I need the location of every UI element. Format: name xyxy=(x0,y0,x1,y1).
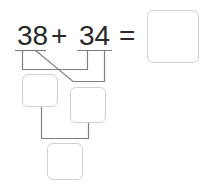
addition-decomposition-diagram: 38 + 34 = xyxy=(0,0,210,194)
equals-sign: = xyxy=(119,22,135,50)
tens-sum-box[interactable] xyxy=(22,74,58,107)
total-box[interactable] xyxy=(47,143,83,180)
answer-box[interactable] xyxy=(147,10,199,63)
operand-a: 38 xyxy=(17,22,48,50)
operand-b: 34 xyxy=(79,22,110,50)
ones-sum-box[interactable] xyxy=(70,87,106,123)
plus-sign: + xyxy=(51,22,67,50)
